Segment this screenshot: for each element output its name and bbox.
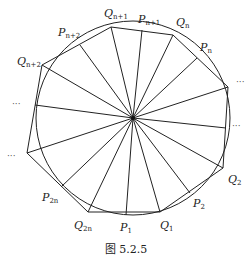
spoke-to-q-n — [133, 35, 173, 118]
spoke-to-p-2n- — [61, 118, 133, 187]
label-q-n: Qn — [176, 17, 190, 30]
spoke-to-p-1 — [126, 118, 133, 215]
diagram-svg — [0, 0, 252, 258]
label-q-n-plus-2: Qn+2 — [17, 56, 41, 69]
center-point — [131, 116, 135, 120]
spoke-to-p-right — [133, 118, 226, 128]
label-q-n-plus-1: Qn+1 — [104, 8, 128, 21]
inscribed-circumscribed-polygon-diagram: Qn+1 Pn+1 Qn Pn Pn+2 Qn+2 Q2 P2 Q1 P1 Q2… — [0, 0, 252, 258]
spoke-to-q-right — [133, 87, 228, 118]
spoke-to-p-left — [35, 105, 133, 118]
spoke-to-p-n — [133, 58, 197, 118]
spoke-to-q-2 — [133, 118, 223, 168]
spoke-to-p-n-1- — [133, 30, 142, 118]
label-q-1: Q1 — [160, 220, 174, 233]
ellipsis-right-mid: ··· — [232, 122, 241, 131]
ellipsis-left-lower: ··· — [7, 152, 16, 161]
radial-spokes — [27, 27, 228, 215]
spoke-to-q-n-2- — [42, 65, 133, 118]
label-q-2n: Q2n — [74, 220, 92, 233]
spoke-to-p-2 — [133, 118, 190, 193]
label-p-n-plus-1: Pn+1 — [138, 14, 160, 27]
spoke-to-q-n-1- — [111, 27, 133, 118]
ellipsis-right-upper: ··· — [236, 78, 245, 87]
spoke-to-q-1 — [133, 118, 160, 212]
label-p-2: P2 — [193, 198, 205, 211]
label-q-2: Q2 — [228, 174, 242, 187]
label-p-n-plus-2: Pn+2 — [58, 27, 80, 40]
ellipsis-left-upper: ··· — [12, 100, 21, 109]
figure-caption: 图 5.2.5 — [0, 240, 252, 256]
label-p-n: Pn — [200, 42, 212, 55]
label-p-1: P1 — [120, 222, 132, 235]
spoke-to-q-2n- — [88, 118, 133, 212]
spoke-to-p-n-2- — [80, 45, 133, 118]
label-p-2n: P2n — [42, 192, 58, 205]
spoke-to-q-left — [27, 118, 133, 153]
